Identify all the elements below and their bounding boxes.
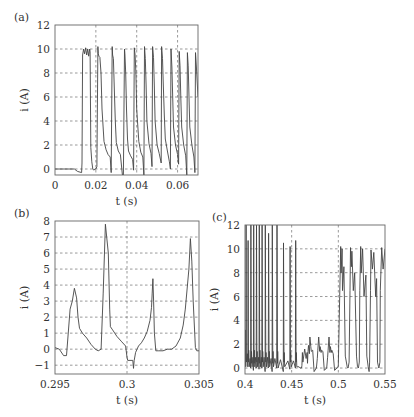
y-tick-label: 2: [233, 338, 240, 350]
panel-a-label: (a): [14, 11, 29, 24]
y-tick-label: 12: [37, 19, 50, 31]
y-tick-label: 6: [233, 291, 240, 303]
panel-c-label: (c): [212, 211, 227, 224]
x-tick-label: 0.45: [280, 378, 303, 390]
y-tick-label: 4: [43, 279, 50, 291]
y-tick-label: 5: [43, 263, 50, 275]
y-tick-label: 7: [43, 231, 50, 243]
y-tick-label: 2: [43, 139, 50, 151]
y-tick-label: 1: [43, 327, 50, 339]
y-tick-label: 3: [43, 295, 50, 307]
y-tick-label: 10: [227, 243, 240, 255]
y-tick-label: 4: [233, 314, 240, 326]
y-tick-label: 8: [43, 215, 50, 227]
y-tick-label: 4: [43, 115, 50, 127]
y-tick-label: 2: [43, 311, 50, 323]
y-tick-label: 6: [43, 247, 50, 259]
panel-c-ylabel: i (A): [208, 288, 221, 312]
panel-b-label: (b): [14, 207, 30, 220]
panel-c-xlabel: t (s): [304, 394, 326, 407]
x-tick-label: 0.295: [40, 378, 70, 390]
y-tick-label: 8: [43, 67, 50, 79]
y-tick-label: 12: [227, 219, 240, 231]
x-tick-label: 0.305: [184, 378, 214, 390]
y-tick-label: 0: [43, 343, 50, 355]
x-tick-label: 0.55: [373, 378, 396, 390]
x-tick-label: 0.5: [330, 378, 347, 390]
panel-b-ylabel: i (A): [18, 286, 31, 310]
panel-c: (c) 0246810120.40.450.50.55 t (s) i (A): [208, 211, 397, 407]
y-tick-label: −1: [35, 359, 50, 371]
panel-a: (a) 02468101200.020.040.06 t (s) i (A): [14, 11, 198, 208]
y-tick-label: 8: [233, 267, 240, 279]
current-trace: [245, 225, 385, 372]
x-tick-label: 0.02: [84, 179, 107, 191]
panel-c-trace: [245, 225, 385, 372]
x-tick-label: 0.04: [125, 179, 149, 191]
panel-a-xlabel: t (s): [115, 195, 137, 208]
x-tick-label: 0.06: [166, 179, 190, 191]
x-tick-label: 0.3: [119, 378, 136, 390]
panel-a-ylabel: i (A): [18, 88, 31, 112]
current-trace: [55, 47, 198, 175]
panel-a-trace: [55, 47, 198, 175]
figure: (a) 02468101200.020.040.06 t (s) i (A) (…: [0, 0, 414, 417]
panel-a-ticks: 02468101200.020.040.06: [37, 19, 190, 191]
y-tick-label: 6: [43, 91, 50, 103]
x-tick-label: 0.4: [237, 378, 254, 390]
panel-b-ticks: −10123456780.2950.30.305: [35, 215, 215, 390]
y-tick-label: 0: [233, 362, 240, 374]
panel-b: (b) −10123456780.2950.30.305 t (s) i (A): [14, 207, 214, 407]
y-tick-label: 0: [43, 163, 50, 175]
y-tick-label: 10: [37, 43, 50, 55]
x-tick-label: 0: [52, 179, 59, 191]
panel-b-xlabel: t (s): [116, 394, 138, 407]
